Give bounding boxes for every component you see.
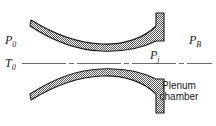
lower-wall-outline [30, 69, 164, 113]
upper-nozzle-wall [30, 13, 164, 51]
plenum-chamber-diagram: P0 T0 Pj PB Plenum chamber [0, 0, 216, 126]
upper-wall-outline [30, 13, 164, 51]
lower-nozzle-wall [30, 69, 164, 113]
label-pj: Pj [150, 49, 160, 64]
label-p0: P0 [5, 34, 16, 49]
nozzle-schematic-svg [0, 0, 216, 126]
label-t0: T0 [5, 57, 16, 72]
label-plenum-chamber: Plenum chamber [146, 80, 212, 102]
label-pb: PB [189, 34, 201, 49]
